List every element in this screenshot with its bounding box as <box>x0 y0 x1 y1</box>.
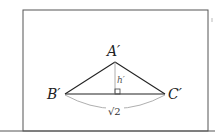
triangle-diagram: A′ B′ C′ h′ √2 <box>0 0 215 136</box>
side-a-b <box>65 62 115 94</box>
vertex-label-a: A′ <box>105 43 121 59</box>
vertex-label-c: C′ <box>168 86 183 102</box>
height-label: h′ <box>117 75 125 85</box>
vertex-label-b: B′ <box>46 86 61 102</box>
right-angle-marker <box>115 89 120 94</box>
base-length-label: √2 <box>108 106 121 117</box>
